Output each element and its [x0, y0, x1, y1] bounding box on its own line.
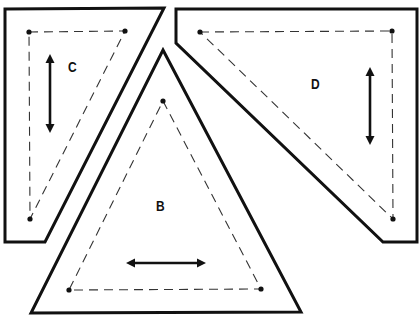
corner-dot-icon: [258, 286, 263, 291]
piece-b-label: B: [156, 197, 165, 214]
corner-dot-icon: [390, 216, 395, 221]
piece-c-label: C: [68, 58, 77, 75]
corner-dot-icon: [122, 28, 127, 33]
pattern-pieces-canvas: [0, 0, 420, 318]
corner-dot-icon: [26, 29, 31, 34]
corner-dot-icon: [66, 287, 71, 292]
quilt-pattern-diagram: C D B: [0, 0, 420, 318]
corner-dot-icon: [389, 28, 394, 33]
piece-d-label: D: [311, 75, 320, 92]
corner-dot-icon: [197, 29, 202, 34]
corner-dot-icon: [27, 216, 32, 221]
corner-dot-icon: [160, 98, 165, 103]
